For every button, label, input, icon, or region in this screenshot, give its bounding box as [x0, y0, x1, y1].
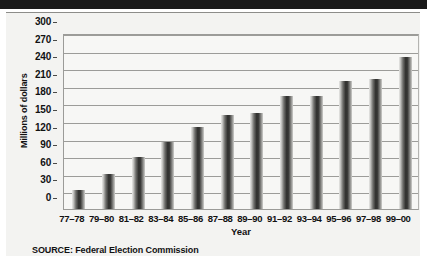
bar [72, 190, 85, 209]
y-axis-tick-mark [53, 57, 57, 58]
y-axis-tick-mark [53, 163, 57, 164]
y-axis-tick-mark [53, 198, 57, 199]
y-axis-tick-mark [53, 145, 57, 146]
y-axis-tick-label: 120 [17, 123, 51, 133]
chart-figure: Millions of dollars 03060901201501802102… [0, 0, 427, 264]
x-axis-title: Year [63, 226, 419, 237]
gridline [64, 88, 418, 89]
gridline [64, 35, 418, 36]
gridline [64, 105, 418, 106]
gridline [64, 193, 418, 194]
bar [250, 113, 263, 209]
y-axis-tick-label: 30 [17, 175, 51, 185]
y-axis-tick-mark [53, 40, 57, 41]
y-axis-tick-label: 90 [17, 140, 51, 150]
gridline [64, 123, 418, 124]
bar [310, 96, 323, 209]
y-axis-tick-mark [53, 180, 57, 181]
bar [280, 96, 293, 209]
y-axis-tick-label: 210 [17, 70, 51, 80]
bar [191, 127, 204, 209]
y-axis-tick-mark [53, 22, 57, 23]
chart-panel: Millions of dollars 03060901201501802102… [6, 12, 420, 256]
bar [102, 174, 115, 209]
bar [369, 79, 382, 209]
y-axis-tick-mark [53, 92, 57, 93]
gridline [64, 53, 418, 54]
source-note: SOURCE: Federal Election Commission [32, 245, 199, 255]
y-axis-tick-label: 270 [17, 35, 51, 45]
y-axis-tick-label: 60 [17, 158, 51, 168]
y-axis-tick-mark [53, 110, 57, 111]
y-axis-tick-label: 180 [17, 87, 51, 97]
y-axis-tick-label: 0 [17, 193, 51, 203]
gridline [64, 141, 418, 142]
y-axis-tick-label: 300 [17, 17, 51, 27]
gridline [64, 70, 418, 71]
y-axis-tick-label: 150 [17, 105, 51, 115]
plot-area [63, 34, 419, 210]
y-axis-tick-label: 240 [17, 52, 51, 62]
gridline [64, 158, 418, 159]
bar [339, 81, 352, 209]
x-axis-tick-label: 99–00 [378, 214, 418, 224]
y-axis-tick-mark [53, 75, 57, 76]
bar [221, 115, 234, 209]
gridline [64, 176, 418, 177]
y-axis-tick-mark [53, 128, 57, 129]
bar [399, 57, 412, 209]
masthead-bar [0, 0, 427, 9]
bar [132, 157, 145, 209]
bar [161, 142, 174, 209]
